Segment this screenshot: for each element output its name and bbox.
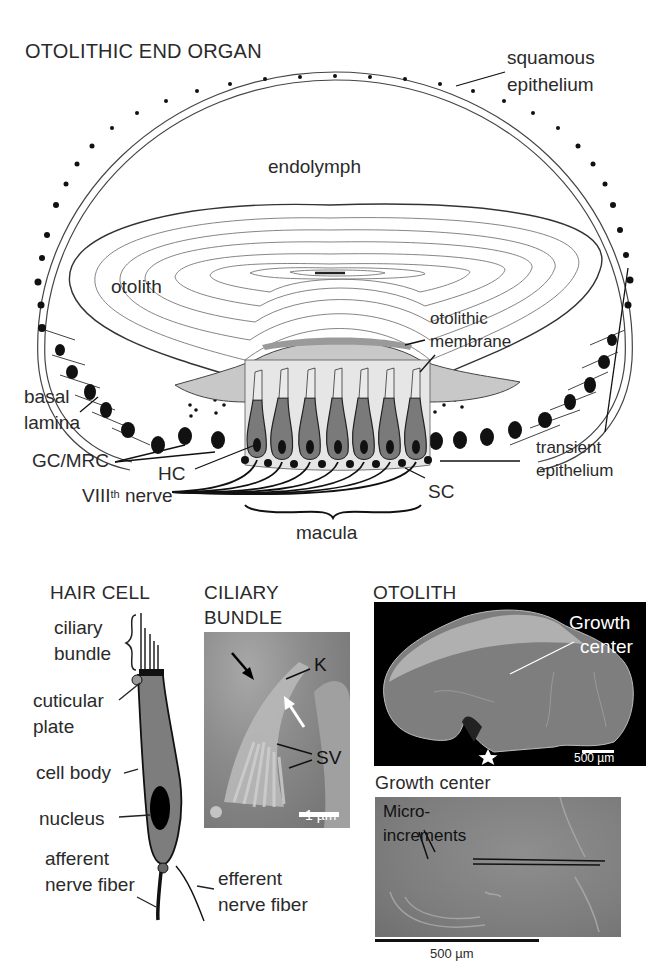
label-k: K [314, 654, 327, 676]
label-macula: macula [296, 522, 357, 544]
label-cell-body: cell body [36, 762, 111, 784]
label-efferent-nerve-fiber-1: efferent [218, 868, 282, 890]
label-viii-nerve-prefix: VIII [82, 485, 111, 506]
scale-bar-label-1um: 1 µm [305, 804, 336, 826]
label-growth-center-2: center [580, 636, 633, 658]
ciliary-bundle-sem-image: K SV 1 µm [204, 632, 350, 828]
label-basal-lamina-2: lamina [24, 412, 80, 434]
scale-bar-500um-growth-center [375, 939, 539, 942]
label-basal-lamina-1: basal [24, 386, 69, 408]
label-afferent-nerve-fiber-1: afferent [45, 848, 109, 870]
black-arrow-icon [232, 653, 254, 680]
label-viii-nerve-suffix: nerve [120, 485, 173, 506]
label-squamous-epithelium-2: epithelium [507, 74, 594, 96]
growth-center-title: Growth center [375, 773, 491, 794]
label-efferent-nerve-fiber-2: nerve fiber [218, 894, 308, 916]
label-otolithic-membrane-1: otolithic [430, 308, 488, 330]
label-hc: HC [158, 463, 185, 485]
white-arrow-icon [284, 696, 304, 727]
label-ciliary-bundle-1: ciliary [54, 617, 103, 639]
label-gc-mrc: GC/MRC [32, 450, 109, 472]
label-viii-nerve-superscript: th [111, 488, 120, 500]
label-endolymph: endolymph [268, 156, 361, 178]
otolith-sem-image: Growth center 500 µm [374, 602, 646, 766]
label-afferent-nerve-fiber-2: nerve fiber [45, 874, 135, 896]
label-transient-epithelium-2: epithelium [536, 460, 614, 482]
otolith-title: OTOLITH [373, 582, 456, 604]
label-viii-nerve: VIIIth nerve [82, 485, 173, 507]
growth-center-sem-image: Micro- increments [375, 797, 621, 937]
macula-brace [245, 505, 421, 518]
label-cuticular-plate-2: plate [33, 716, 74, 738]
otolithic-end-organ-title: OTOLITHIC END ORGAN [25, 40, 262, 63]
label-transient-epithelium-1: transient [536, 437, 601, 459]
label-nucleus: nucleus [39, 808, 105, 830]
label-otolithic-membrane-2: membrane [430, 331, 511, 353]
label-sc: SC [428, 481, 454, 503]
scale-bar-label-500um-otolith: 500 µm [574, 751, 614, 765]
ciliary-bundle-title-2: BUNDLE [204, 607, 282, 629]
label-microincrements-2: increments [383, 825, 466, 847]
label-growth-center-1: Growth [569, 612, 630, 634]
hair-cell-title: HAIR CELL [50, 582, 150, 604]
label-otolith: otolith [111, 276, 162, 298]
label-squamous-epithelium-1: squamous [507, 47, 595, 69]
label-cuticular-plate-1: cuticular [33, 690, 104, 712]
ciliary-bundle-title-1: CILIARY [204, 582, 279, 604]
label-microincrements-1: Micro- [383, 801, 430, 823]
label-sv: SV [316, 747, 341, 769]
ciliary-bundle-sem-drawing [204, 632, 350, 828]
scale-bar-label-500um-growth-center: 500 µm [430, 946, 474, 961]
label-ciliary-bundle-2: bundle [54, 643, 111, 665]
